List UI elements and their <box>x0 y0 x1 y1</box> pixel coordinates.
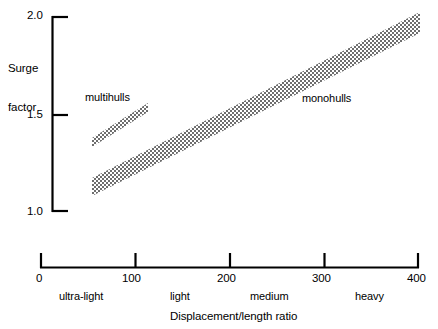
x-category-label-heavy: heavy <box>355 290 384 303</box>
y-axis-title: Surge factor <box>8 36 38 140</box>
y-tick-label-1-5: 1.5 <box>27 108 43 121</box>
x-category-label-medium: medium <box>250 290 289 303</box>
x-tick-label-400: 400 <box>407 272 426 285</box>
series-band-monohulls <box>92 12 420 196</box>
x-category-label-light: light <box>170 290 190 303</box>
x-axis-title: Displacement/length ratio <box>170 310 297 323</box>
y-axis-title-line1: Surge <box>8 62 38 75</box>
series-label-monohulls: monohulls <box>302 92 351 105</box>
series-band-multihulls <box>92 103 148 147</box>
x-tick-label-100: 100 <box>122 272 141 285</box>
x-tick-label-0: 0 <box>36 272 42 285</box>
y-tick-label-1-0: 1.0 <box>27 205 43 218</box>
chart-figure: Surge factor 2.0 1.5 1.0 0 100 200 300 4… <box>0 0 438 329</box>
x-category-label-ultra-light: ultra-light <box>59 290 103 303</box>
series-label-multihulls: multihulls <box>85 91 130 104</box>
x-axis <box>40 253 419 268</box>
x-tick-label-200: 200 <box>217 272 236 285</box>
y-axis <box>52 16 68 212</box>
x-tick-label-300: 300 <box>312 272 331 285</box>
y-tick-label-2-0: 2.0 <box>27 9 43 22</box>
